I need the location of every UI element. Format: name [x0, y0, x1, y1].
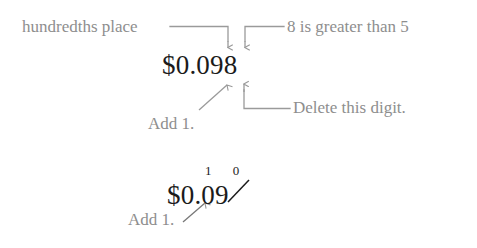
amount-step-two-struck-digit: 9 — [215, 180, 229, 210]
connector-hundredths-place — [170, 27, 228, 48]
connector-add-one-top — [199, 85, 227, 110]
strikethrough-slash-icon — [228, 180, 249, 202]
label-greater-than: 8 is greater than 5 — [287, 17, 409, 37]
amount-step-one: $0.098 — [162, 50, 237, 80]
label-add-one-bottom: Add 1. — [128, 210, 174, 230]
label-hundredths-place: hundredths place — [22, 17, 138, 37]
connector-delete-digit — [244, 84, 290, 109]
label-delete-digit: Delete this digit. — [293, 98, 406, 118]
amount-step-two-prefix: $0.0 — [167, 180, 215, 210]
carry-digits: 1 0 — [205, 164, 248, 178]
rounding-diagram: hundredths place 8 is greater than 5 $0.… — [0, 0, 477, 248]
annotation-lines-layer — [0, 0, 477, 248]
amount-step-two: $0.09 — [167, 180, 229, 210]
connector-greater-than — [245, 27, 284, 48]
label-add-one-top: Add 1. — [148, 114, 194, 134]
